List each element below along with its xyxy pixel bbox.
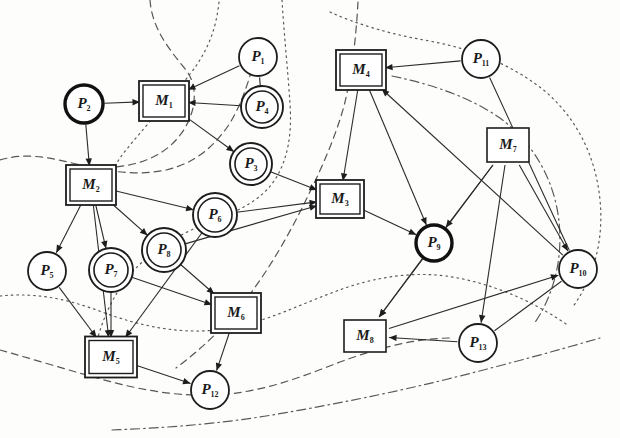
node-M2[interactable]: M2	[66, 165, 116, 205]
partition-curve-cut-3	[0, 62, 254, 173]
edge-M2-P6	[115, 191, 194, 211]
node-M4[interactable]: M4	[336, 50, 386, 90]
graph-diagram: P1P2P3P4P5P6P7P8P9P10P11P12P13M1M2M3M4M5…	[0, 0, 620, 438]
edge-M8-P10	[389, 274, 558, 328]
arrowhead	[186, 205, 194, 211]
node-P12[interactable]: P12	[191, 371, 229, 409]
node-M5[interactable]: M5	[85, 337, 137, 378]
arrowhead	[226, 145, 234, 152]
node-layer: P1P2P3P4P5P6P7P8P9P10P11P12P13M1M2M3M4M5…	[28, 38, 597, 409]
edge-M7-P10	[519, 165, 568, 251]
edge-P10-M4	[382, 89, 563, 255]
edge-P5-M5	[59, 287, 96, 337]
node-P10[interactable]: P10	[559, 250, 597, 288]
edge-P9-M8	[379, 259, 422, 317]
edge-M4-P9	[369, 89, 427, 225]
edge-P3-M3	[271, 172, 318, 191]
node-P9[interactable]: P9	[416, 225, 452, 261]
node-P7[interactable]: P7	[89, 248, 133, 292]
edge-M2-P5	[56, 204, 81, 253]
edge-P4-P1	[260, 77, 261, 86]
edge-M3-P9	[363, 210, 416, 235]
node-P11[interactable]: P11	[462, 40, 500, 78]
edge-P8-M6	[181, 265, 215, 295]
node-M1[interactable]: M1	[139, 81, 189, 121]
node-M7[interactable]: M7	[487, 128, 529, 162]
arrowhead	[182, 378, 190, 384]
edge-P11-M4	[385, 61, 461, 70]
partition-curve-cut-7	[392, 76, 560, 324]
arrowhead	[389, 335, 397, 341]
edge-M4-M3	[341, 89, 358, 181]
node-P5[interactable]: P5	[28, 252, 66, 290]
node-P4[interactable]: P4	[241, 86, 283, 128]
edge-P4-M1	[188, 100, 241, 106]
node-P3[interactable]: P3	[230, 143, 272, 185]
node-P8[interactable]: P8	[142, 228, 186, 272]
node-M8[interactable]: M8	[344, 320, 386, 352]
node-M6[interactable]: M6	[211, 293, 261, 333]
node-P2[interactable]: P2	[65, 85, 103, 123]
edge-P1-M1	[188, 66, 239, 90]
node-M3[interactable]: M3	[316, 180, 364, 218]
edge-P2-M2	[86, 124, 92, 166]
edge-P13-P10	[495, 281, 562, 331]
arrowhead	[479, 315, 485, 323]
arrowhead	[101, 241, 107, 249]
edge-M6-P12	[216, 332, 230, 371]
edge-P2-M1	[105, 99, 141, 105]
node-P1[interactable]: P1	[239, 38, 277, 76]
edge-M5-P12	[136, 365, 191, 384]
node-P6[interactable]: P6	[193, 193, 237, 237]
node-P13[interactable]: P13	[459, 324, 497, 362]
arrowhead	[216, 362, 222, 370]
edge-M2-P8	[112, 204, 147, 235]
